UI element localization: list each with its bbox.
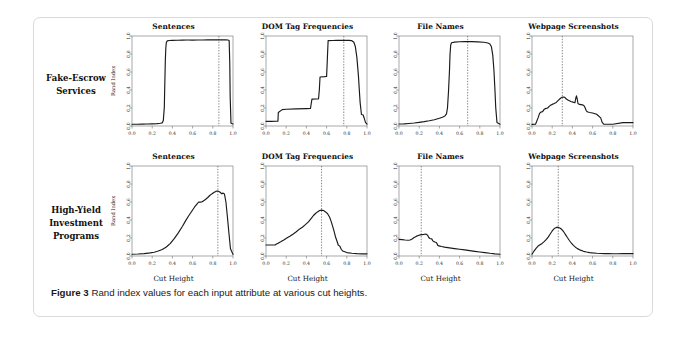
plot-panel: DOM Tag Frequencies0.00.20.40.60.81.00.0… xyxy=(242,152,373,280)
caption-text: Rand index values for each input attribu… xyxy=(91,287,367,298)
y-tick-label: 1.0 xyxy=(126,162,131,169)
y-tick-label: 0.4 xyxy=(526,86,531,93)
plot-panel: DOM Tag Frequencies0.00.20.40.60.81.00.0… xyxy=(242,22,373,150)
y-tick-label: 1.0 xyxy=(393,32,398,39)
y-tick-label: 1.0 xyxy=(126,32,131,39)
x-tick-label: 0.0 xyxy=(528,131,535,136)
y-tick-label: 0.8 xyxy=(393,180,398,187)
panel-title: File Names xyxy=(375,22,506,31)
y-tick-label: 0.6 xyxy=(393,68,398,75)
x-tick-label: 1.0 xyxy=(629,131,636,136)
plot-panel: Sentences0.00.20.40.60.81.00.00.20.40.60… xyxy=(108,152,239,280)
y-tick-label: 0.6 xyxy=(260,68,265,75)
y-tick-label: 0.2 xyxy=(260,104,265,111)
x-tick-label: 0.6 xyxy=(589,261,596,266)
y-tick-label: 0.0 xyxy=(526,122,531,129)
x-tick-label: 0.6 xyxy=(456,261,463,266)
plot-canvas: 0.00.20.40.60.81.00.00.20.40.60.81.0 xyxy=(242,31,373,143)
x-tick-label: 0.8 xyxy=(476,261,483,266)
data-series-line xyxy=(266,210,367,254)
plot-frame xyxy=(132,36,233,126)
panel-title: Webpage Screenshots xyxy=(508,22,639,31)
x-tick-label: 0.6 xyxy=(323,131,330,136)
x-tick-label: 0.0 xyxy=(395,261,402,266)
y-tick-label: 0.4 xyxy=(526,216,531,223)
x-axis-title: Cut Height xyxy=(108,274,239,283)
x-tick-label: 0.4 xyxy=(569,131,576,136)
data-series-line xyxy=(399,234,500,254)
x-tick-label: 0.0 xyxy=(395,131,402,136)
x-tick-label: 0.6 xyxy=(589,131,596,136)
x-tick-label: 0.0 xyxy=(128,261,135,266)
x-axis-title: Cut Height xyxy=(375,274,506,283)
y-tick-label: 0.2 xyxy=(260,234,265,241)
x-tick-label: 1.0 xyxy=(363,131,370,136)
x-tick-label: 0.2 xyxy=(416,261,423,266)
row-label-high-yield: High-Yield Investment Programs xyxy=(40,204,112,243)
y-tick-label: 0.6 xyxy=(126,68,131,75)
plot-grid: Fake-Escrow Services High-Yield Investme… xyxy=(34,18,652,280)
x-tick-label: 0.2 xyxy=(549,131,556,136)
y-tick-label: 0.2 xyxy=(126,104,131,111)
plot-frame xyxy=(266,166,367,256)
x-tick-label: 0.4 xyxy=(436,131,443,136)
panel-title: DOM Tag Frequencies xyxy=(242,152,373,161)
row-label-fake-escrow: Fake-Escrow Services xyxy=(40,72,112,98)
y-tick-label: 0.6 xyxy=(526,68,531,75)
x-tick-label: 0.2 xyxy=(149,261,156,266)
y-axis-title: Rand Index xyxy=(110,66,116,96)
y-tick-label: 1.0 xyxy=(260,32,265,39)
x-tick-label: 0.4 xyxy=(303,131,310,136)
y-tick-label: 0.0 xyxy=(260,252,265,259)
y-tick-label: 0.6 xyxy=(393,198,398,205)
y-axis-title: Rand Index xyxy=(110,196,116,226)
plot-panel: File Names0.00.20.40.60.81.00.00.20.40.6… xyxy=(375,152,506,280)
x-tick-label: 1.0 xyxy=(496,261,503,266)
x-tick-label: 1.0 xyxy=(363,261,370,266)
y-tick-label: 0.2 xyxy=(526,104,531,111)
x-tick-label: 0.2 xyxy=(283,131,290,136)
y-tick-label: 1.0 xyxy=(260,162,265,169)
y-tick-label: 0.8 xyxy=(260,180,265,187)
x-tick-label: 0.0 xyxy=(528,261,535,266)
plot-panel: Webpage Screenshots0.00.20.40.60.81.00.0… xyxy=(508,22,639,150)
x-tick-label: 0.2 xyxy=(416,131,423,136)
plot-panel: File Names0.00.20.40.60.81.00.00.20.40.6… xyxy=(375,22,506,150)
plot-frame xyxy=(532,36,633,126)
y-tick-label: 0.6 xyxy=(526,198,531,205)
data-series-line xyxy=(266,40,367,124)
x-tick-label: 1.0 xyxy=(229,261,236,266)
y-tick-label: 0.6 xyxy=(260,198,265,205)
x-tick-label: 0.8 xyxy=(209,261,216,266)
y-tick-label: 0.6 xyxy=(126,198,131,205)
row-label-line: Fake-Escrow Services xyxy=(40,72,112,98)
x-axis-title: Cut Height xyxy=(242,274,373,283)
figure-card: Fake-Escrow Services High-Yield Investme… xyxy=(33,17,653,317)
panel-title: File Names xyxy=(375,152,506,161)
x-tick-label: 0.6 xyxy=(323,261,330,266)
plot-canvas: 0.00.20.40.60.81.00.00.20.40.60.81.0 xyxy=(375,31,506,143)
panel-title: Webpage Screenshots xyxy=(508,152,639,161)
y-tick-label: 0.8 xyxy=(126,50,131,57)
x-tick-label: 0.8 xyxy=(609,131,616,136)
x-tick-label: 1.0 xyxy=(229,131,236,136)
x-tick-label: 0.6 xyxy=(189,261,196,266)
y-tick-label: 0.0 xyxy=(393,122,398,129)
y-tick-label: 1.0 xyxy=(526,32,531,39)
y-tick-label: 0.0 xyxy=(260,122,265,129)
x-tick-label: 0.8 xyxy=(476,131,483,136)
x-tick-label: 0.0 xyxy=(128,131,135,136)
y-tick-label: 0.2 xyxy=(393,234,398,241)
y-tick-label: 0.2 xyxy=(126,234,131,241)
x-tick-label: 0.4 xyxy=(169,261,176,266)
x-tick-label: 0.4 xyxy=(303,261,310,266)
y-tick-label: 1.0 xyxy=(393,162,398,169)
panel-title: DOM Tag Frequencies xyxy=(242,22,373,31)
x-tick-label: 0.4 xyxy=(569,261,576,266)
figure-caption: Figure 3 Rand index values for each inpu… xyxy=(51,286,638,300)
y-tick-label: 0.0 xyxy=(126,252,131,259)
y-tick-label: 0.4 xyxy=(260,86,265,93)
x-tick-label: 0.4 xyxy=(169,131,176,136)
y-tick-label: 0.4 xyxy=(260,216,265,223)
x-tick-label: 0.0 xyxy=(262,261,269,266)
